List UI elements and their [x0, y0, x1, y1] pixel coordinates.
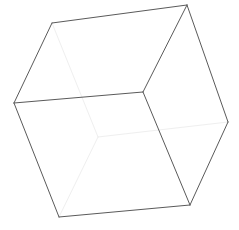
hidden-edge-group [52, 23, 228, 217]
wireframe-cube-drawing [0, 0, 239, 230]
cube-edge-top-front [14, 92, 143, 103]
cube-edge-bottom-right [190, 122, 228, 205]
cube-edge-bottom-back [98, 122, 228, 137]
cube-edge-vertical-back-left [52, 23, 98, 137]
cube-figure-canvas [0, 0, 239, 230]
cube-edge-top-left [14, 23, 52, 103]
cube-edge-vertical-front-left [14, 103, 59, 217]
cube-edge-vertical-back-right [187, 5, 228, 122]
cube-edge-bottom-front [59, 205, 190, 217]
cube-edge-vertical-front-right [143, 92, 190, 205]
cube-edge-top-back [52, 5, 187, 23]
cube-edge-bottom-left [59, 137, 98, 217]
visible-edge-group [14, 5, 228, 217]
cube-edge-top-right [143, 5, 187, 92]
